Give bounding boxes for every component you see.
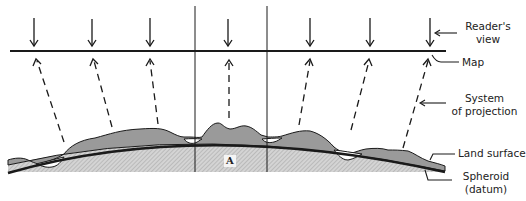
system-of-projection-label: System of projection — [447, 92, 522, 118]
spheroid-line1: Spheroid — [455, 170, 517, 183]
spheroid-line2: (datum) — [455, 183, 517, 196]
readers-view-arrows — [30, 18, 434, 46]
readers-view-label: Reader's view — [458, 20, 518, 46]
map-label: Map — [462, 56, 484, 69]
spheroid-datum-label: Spheroid (datum) — [455, 170, 517, 196]
readers-view-line2: view — [458, 33, 518, 46]
region-a-label: A — [224, 155, 236, 167]
system-line1: System — [447, 92, 522, 105]
readers-view-line1: Reader's — [458, 20, 518, 33]
land-surface-label: Land surface — [458, 147, 526, 160]
system-line2: of projection — [447, 105, 522, 118]
